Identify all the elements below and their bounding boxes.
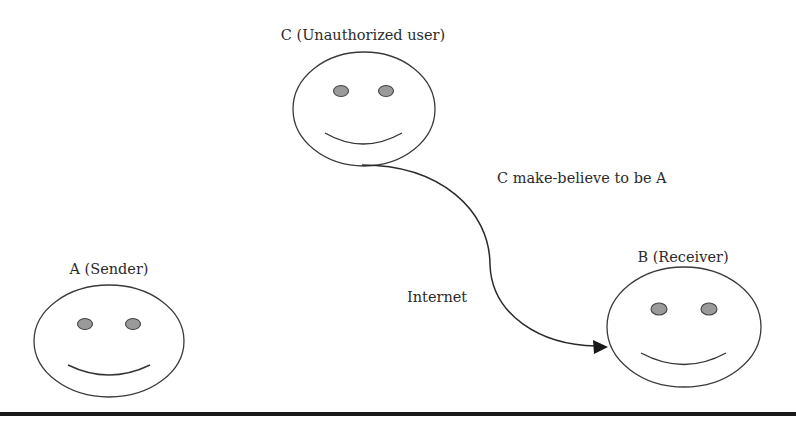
bottom-divider (0, 412, 796, 416)
right-eye (126, 319, 141, 330)
connection-c-to-b (362, 165, 608, 354)
right-eye (379, 86, 394, 97)
smiley-face-icon (607, 267, 761, 387)
arrowhead-icon (593, 340, 608, 354)
left-eye (78, 319, 93, 330)
right-eye (701, 303, 717, 315)
channel-label: Internet (407, 289, 467, 305)
face-outline (607, 267, 761, 387)
left-eye (651, 303, 667, 315)
face-outline (293, 52, 435, 166)
actor-a-label: A (Sender) (68, 261, 148, 277)
face-outline (34, 285, 184, 397)
smiley-face-icon (293, 52, 435, 166)
spoofing-diagram: C (Unauthorized user) A (Sender) B (Rece… (0, 0, 796, 424)
smiley-face-icon (34, 285, 184, 397)
actor-b-label: B (Receiver) (637, 249, 728, 265)
actor-a-sender: A (Sender) (34, 261, 184, 397)
actor-b-receiver: B (Receiver) (607, 249, 761, 387)
left-eye (334, 86, 349, 97)
curved-arrow-line (362, 165, 596, 346)
actor-c-label: C (Unauthorized user) (281, 27, 445, 43)
impersonation-annotation: C make-believe to be A (497, 170, 667, 186)
actor-c-unauthorized-user: C (Unauthorized user) (281, 27, 445, 166)
